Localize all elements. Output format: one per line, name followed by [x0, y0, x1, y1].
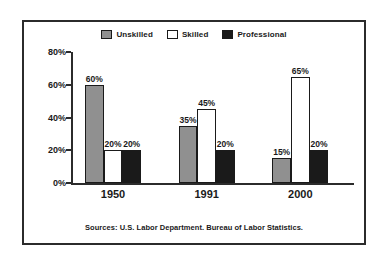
legend-item-professional: Professional [222, 30, 286, 39]
y-tick-mark [66, 51, 71, 53]
chart-page: Unskilled Skilled Professional 0%20%40%6… [0, 0, 387, 262]
bar-professional-1991[interactable] [216, 150, 235, 183]
bar-value-label: 20% [217, 139, 234, 149]
bar-value-label: 45% [198, 98, 215, 108]
plot-area: 0%20%40%60%80% 60%20%20%35%45%20%15%65%2… [38, 52, 354, 197]
y-tick-mark [66, 149, 71, 151]
bar-group-1950: 60%20%20% [85, 52, 141, 183]
bar-group-bars: 60%20%20% [85, 52, 141, 183]
bars-region: 60%20%20%35%45%20%15%65%20% [73, 52, 354, 183]
bar-value-label: 15% [273, 147, 290, 157]
bar-value-label: 20% [104, 139, 121, 149]
bar-slot-professional-2000: 20% [310, 52, 329, 183]
bar-slot-unskilled-2000: 15% [272, 52, 291, 183]
bar-skilled-1950[interactable] [104, 150, 123, 183]
bar-value-label: 35% [179, 115, 196, 125]
bar-value-label: 20% [310, 139, 327, 149]
y-tick-mark [66, 117, 71, 119]
legend-item-skilled: Skilled [167, 30, 209, 39]
legend-label-unskilled: Unskilled [116, 30, 152, 39]
bar-unskilled-1950[interactable] [85, 85, 104, 183]
y-tick-label-60: 60% [48, 80, 66, 90]
bar-group-2000: 15%65%20% [272, 52, 328, 183]
bar-slot-unskilled-1950: 60% [85, 52, 104, 183]
bar-professional-2000[interactable] [310, 150, 329, 183]
y-tick-label-40: 40% [48, 113, 66, 123]
legend-label-professional: Professional [237, 30, 286, 39]
bar-slot-unskilled-1991: 35% [179, 52, 198, 183]
bar-professional-1950[interactable] [122, 150, 141, 183]
bar-slot-skilled-2000: 65% [291, 52, 310, 183]
legend-swatch-skilled-icon [167, 30, 178, 39]
legend-swatch-professional-icon [222, 30, 233, 39]
bar-slot-professional-1950: 20% [122, 52, 141, 183]
source-note: Sources: U.S. Labor Department. Bureau o… [24, 223, 364, 232]
bar-value-label: 20% [123, 139, 140, 149]
x-axis-category-labels: 195019912000 [73, 188, 354, 204]
bar-skilled-1991[interactable] [197, 109, 216, 183]
chart-legend: Unskilled Skilled Professional [24, 30, 364, 39]
bar-value-label: 65% [292, 66, 309, 76]
bar-value-label: 60% [86, 74, 103, 84]
legend-label-skilled: Skilled [182, 30, 209, 39]
bar-slot-professional-1991: 20% [216, 52, 235, 183]
legend-item-unskilled: Unskilled [101, 30, 152, 39]
bar-slot-skilled-1991: 45% [197, 52, 216, 183]
y-axis-tick-labels: 0%20%40%60%80% [38, 52, 68, 185]
bar-slot-skilled-1950: 20% [104, 52, 123, 183]
bar-unskilled-1991[interactable] [179, 126, 198, 183]
y-tick-label-80: 80% [48, 47, 66, 57]
y-tick-mark [66, 84, 71, 86]
x-category-label-2000: 2000 [288, 188, 312, 200]
x-axis-line [71, 183, 354, 185]
chart-frame: Unskilled Skilled Professional 0%20%40%6… [22, 20, 366, 245]
bar-group-1991: 35%45%20% [179, 52, 235, 183]
x-category-label-1991: 1991 [194, 188, 218, 200]
bar-group-bars: 35%45%20% [179, 52, 235, 183]
y-tick-label-20: 20% [48, 145, 66, 155]
bar-skilled-2000[interactable] [291, 77, 310, 183]
x-category-label-1950: 1950 [101, 188, 125, 200]
legend-swatch-unskilled-icon [101, 30, 112, 39]
bar-group-bars: 15%65%20% [272, 52, 328, 183]
y-tick-label-0: 0% [53, 178, 66, 188]
bar-unskilled-2000[interactable] [272, 158, 291, 183]
